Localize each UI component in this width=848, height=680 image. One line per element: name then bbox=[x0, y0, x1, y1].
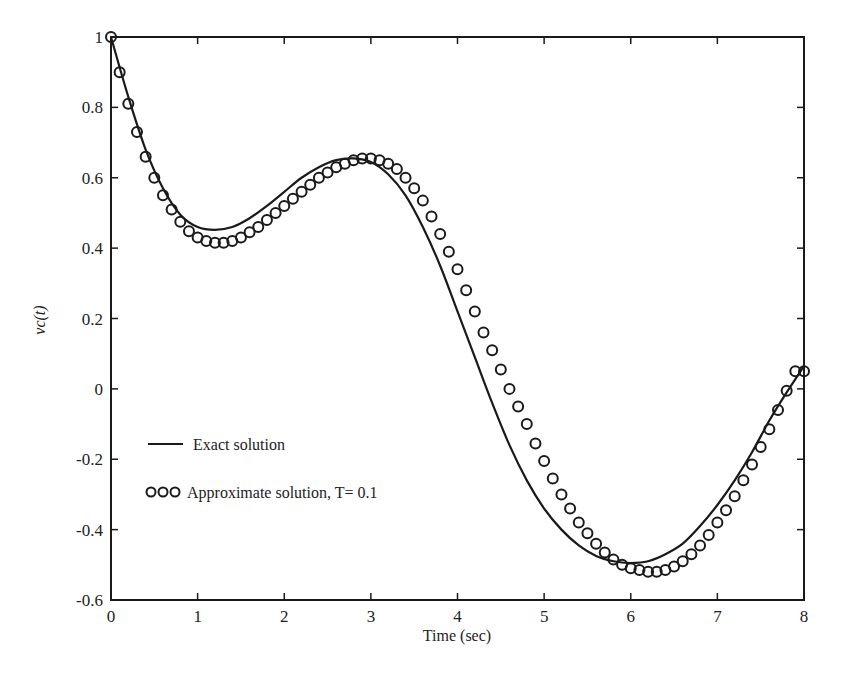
approx-data-point bbox=[539, 456, 549, 466]
x-tick-label: 6 bbox=[627, 607, 636, 626]
approx-data-point bbox=[678, 556, 688, 566]
approx-data-point bbox=[444, 247, 454, 257]
approx-data-point bbox=[401, 173, 411, 183]
approx-data-point bbox=[279, 201, 289, 211]
y-tick-label: 0 bbox=[95, 380, 104, 399]
approx-data-point bbox=[686, 549, 696, 559]
approx-data-point bbox=[574, 518, 584, 528]
approx-data-point bbox=[738, 475, 748, 485]
legend-approx-circles-icon bbox=[147, 488, 180, 497]
approx-data-point bbox=[427, 211, 437, 221]
y-tick-label: 0.2 bbox=[82, 310, 103, 329]
approx-data-point bbox=[747, 460, 757, 470]
y-axis-title: vc(t) bbox=[31, 305, 49, 334]
approx-data-point bbox=[418, 196, 428, 206]
y-tick-label: -0.2 bbox=[76, 450, 103, 469]
approx-data-point bbox=[478, 328, 488, 338]
approx-data-point bbox=[175, 217, 185, 227]
y-tick-label: 0.4 bbox=[82, 239, 104, 258]
x-tick-label: 5 bbox=[540, 607, 549, 626]
approx-data-point bbox=[756, 442, 766, 452]
approx-data-point bbox=[305, 180, 315, 190]
approx-data-point bbox=[556, 489, 566, 499]
approx-data-point bbox=[504, 384, 514, 394]
y-axis-title-main: vc bbox=[31, 320, 48, 334]
approx-data-point bbox=[712, 518, 722, 528]
x-axis-ticks: 012345678 bbox=[107, 37, 809, 626]
approx-data-point bbox=[548, 474, 558, 484]
approx-data-point bbox=[392, 164, 402, 174]
approx-data-point bbox=[721, 505, 731, 515]
approx-data-point bbox=[764, 424, 774, 434]
x-tick-label: 3 bbox=[367, 607, 376, 626]
y-axis-ticks: -0.6-0.4-0.200.20.40.60.81 bbox=[76, 28, 804, 610]
approx-data-point bbox=[582, 528, 592, 538]
approx-data-point bbox=[530, 438, 540, 448]
x-tick-label: 7 bbox=[713, 607, 722, 626]
x-tick-label: 0 bbox=[107, 607, 116, 626]
legend-exact-label: Exact solution bbox=[193, 436, 285, 453]
x-axis-title: Time (sec) bbox=[423, 627, 491, 645]
approx-data-point bbox=[409, 183, 419, 193]
approx-data-point bbox=[461, 285, 471, 295]
x-tick-label: 4 bbox=[453, 607, 462, 626]
x-tick-label: 8 bbox=[800, 607, 809, 626]
approx-data-point bbox=[591, 539, 601, 549]
approx-data-point bbox=[435, 229, 445, 239]
approx-data-point bbox=[730, 491, 740, 501]
y-axis-title-arg: (t) bbox=[31, 305, 49, 320]
approx-data-point bbox=[695, 540, 705, 550]
approx-data-point bbox=[470, 306, 480, 316]
legend: Exact solution Approximate solution, T= … bbox=[147, 436, 378, 502]
plot-frame bbox=[111, 37, 804, 600]
approx-data-point bbox=[513, 401, 523, 411]
x-tick-label: 1 bbox=[193, 607, 202, 626]
approx-data-point bbox=[565, 504, 575, 514]
approx-data-point bbox=[600, 547, 610, 557]
approx-data-point bbox=[253, 222, 263, 232]
approx-data-point bbox=[704, 530, 714, 540]
legend-approx-label: Approximate solution, T= 0.1 bbox=[187, 484, 378, 502]
y-tick-label: -0.6 bbox=[76, 591, 103, 610]
approx-data-point bbox=[487, 345, 497, 355]
approx-data-point bbox=[453, 264, 463, 274]
x-tick-label: 2 bbox=[280, 607, 289, 626]
approx-data-point bbox=[271, 208, 281, 218]
y-tick-label: 0.8 bbox=[82, 98, 103, 117]
approx-data-point bbox=[297, 187, 307, 197]
approx-data-point bbox=[288, 194, 298, 204]
y-tick-label: 1 bbox=[95, 28, 104, 47]
approx-data-point bbox=[262, 215, 272, 225]
approx-data-point bbox=[496, 365, 506, 375]
chart-canvas: 012345678 -0.6-0.4-0.200.20.40.60.81 Tim… bbox=[0, 0, 848, 680]
approx-data-point bbox=[522, 419, 532, 429]
y-tick-label: -0.4 bbox=[76, 521, 103, 540]
y-tick-label: 0.6 bbox=[82, 169, 103, 188]
